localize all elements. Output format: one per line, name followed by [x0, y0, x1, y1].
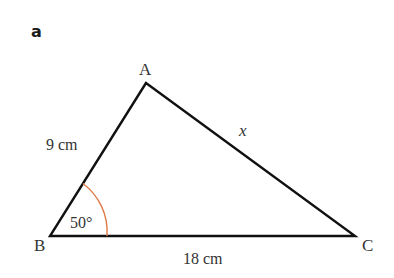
vertex-label-a: A — [139, 60, 152, 79]
angle-b-label: 50° — [70, 214, 92, 231]
vertex-label-c: C — [362, 236, 373, 255]
triangle-figure: a A B C 9 cm 18 cm x 50° — [0, 0, 394, 278]
vertex-label-b: B — [34, 236, 45, 255]
side-label-ab: 9 cm — [46, 136, 78, 153]
triangle-abc — [50, 83, 355, 236]
side-label-ac: x — [238, 121, 247, 140]
side-label-bc: 18 cm — [183, 250, 223, 267]
part-label: a — [31, 22, 42, 41]
triangle-diagram: A B C 9 cm 18 cm x 50° — [0, 0, 394, 278]
